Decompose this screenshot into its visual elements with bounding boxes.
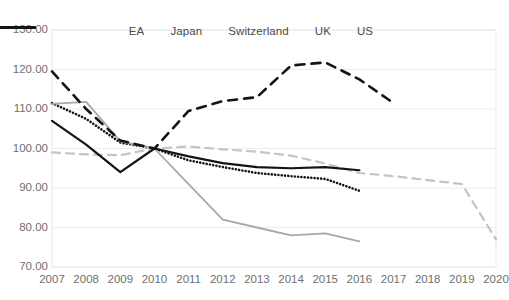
x-tick-label: 2009 [108,274,134,286]
legend-label: US [357,26,373,38]
x-tick-label: 2014 [278,274,304,286]
x-tick-label: 2018 [415,274,441,286]
legend-label: UK [315,26,331,38]
x-tick-label: 2019 [449,274,475,286]
x-tick-label: 2016 [347,274,373,286]
x-tick-label: 2015 [312,274,338,286]
x-tick-label: 2008 [73,274,99,286]
chart-legend: EAJapanSwitzerlandUKUS [0,22,502,42]
legend-item-japan[interactable]: Japan [170,26,202,38]
legend-item-switzerland[interactable]: Switzerland [228,26,289,38]
x-tick-label: 2007 [39,274,65,286]
legend-item-ea[interactable]: EA [129,26,145,38]
x-tick-label: 2017 [381,274,407,286]
legend-label: Switzerland [228,26,289,38]
x-tick-label: 2020 [483,274,509,286]
x-tick-label: 2012 [210,274,236,286]
legend-swatch-us [0,22,36,33]
legend-item-uk[interactable]: UK [315,26,331,38]
x-tick-label: 2010 [142,274,168,286]
legend-label: EA [129,26,145,38]
legend-item-us[interactable]: US [357,26,373,38]
x-tick-label: 2011 [176,274,201,286]
legend-label: Japan [170,26,202,38]
x-tick-label: 2013 [244,274,270,286]
